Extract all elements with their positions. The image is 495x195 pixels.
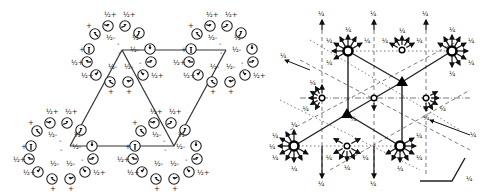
spin-label: ½+	[169, 108, 182, 116]
spin-label: +	[181, 46, 187, 54]
spin-glyph-icon	[240, 70, 250, 80]
spin-label: +	[132, 119, 138, 127]
spin-label: -	[163, 137, 166, 145]
arrow-label: ¼	[470, 131, 477, 139]
spin-glyph-icon	[222, 21, 232, 31]
left-lattice-diagram: +½+½++½-½+-½+++½+½-½-½-½---+½+½++½-½+-½+…	[13, 11, 266, 193]
spin-label: -	[164, 146, 167, 154]
spin-glyph-icon	[191, 141, 201, 151]
lattice-grid-lines	[280, 30, 470, 175]
arrow-label: ¼	[416, 37, 423, 45]
spin-glyph-icon	[105, 77, 115, 87]
spin-label: ½-	[154, 160, 164, 168]
filled-triangle-node-icon	[396, 76, 408, 86]
spin-glyph-icon	[120, 21, 130, 31]
spin-label: ½-	[124, 63, 134, 71]
spin-label: ½+	[206, 11, 219, 19]
spin-glyph-icon	[248, 57, 258, 67]
spin-glyph-icon	[169, 174, 179, 184]
spin-label: +	[125, 143, 131, 151]
arrow-label: ¼	[397, 165, 404, 173]
spin-glyph-icon	[205, 21, 215, 31]
spin-label: ½-	[210, 63, 220, 71]
spin-label: +	[79, 46, 85, 54]
arrow-label: ¼	[272, 132, 279, 140]
arrow-label: ¼	[344, 164, 351, 172]
arrow-label: ¼	[439, 105, 446, 113]
spin-label: ½-	[74, 131, 84, 139]
arrow-label: ¼	[291, 165, 298, 173]
spin-label: ½+	[127, 169, 140, 177]
spin-glyph-icon	[149, 118, 159, 128]
spin-label: ½-	[178, 131, 188, 139]
spin-label: ½+	[71, 59, 84, 67]
spin-glyph-icon	[47, 174, 57, 184]
spin-label: -	[139, 59, 142, 67]
spin-glyph-icon	[88, 154, 98, 164]
spin-label: ½-	[232, 46, 242, 54]
arrow-label: ¼	[326, 59, 333, 67]
spin-label: -	[219, 40, 222, 48]
spin-label: ½-	[176, 143, 186, 151]
arrow-label: ¼	[423, 114, 430, 122]
spin-glyph-icon	[87, 141, 97, 151]
spin-cluster-bottom-left: +½+½++½-½+-½+++½+½-½-½-½---	[13, 108, 106, 193]
open-small-node-icon	[399, 47, 405, 53]
spin-glyph-icon	[65, 174, 75, 184]
open-small-node-icon	[371, 95, 377, 101]
spin-label: ½+	[123, 11, 136, 19]
spin-label: ½+	[13, 156, 26, 164]
spin-label: ½+	[93, 169, 106, 177]
spin-cluster-bottom-middle: +½+½++½-½+-½+++½+½-½-½-½---	[117, 108, 210, 193]
spin-glyph-icon	[103, 21, 113, 31]
spin-label: ½+	[65, 108, 78, 116]
spin-glyph-icon	[151, 174, 161, 184]
spin-label: ½+	[104, 11, 117, 19]
arrow-label: ¼	[318, 10, 325, 18]
arrow-label: ¼	[399, 27, 406, 35]
spin-label: ½+	[117, 156, 130, 164]
spin-label: +	[210, 88, 216, 96]
arrow-label: ¼	[416, 154, 423, 162]
spin-glyph-icon	[32, 126, 42, 136]
spin-glyph-icon	[84, 44, 94, 54]
arrow-label: ¼	[468, 59, 475, 67]
spin-label: +	[172, 185, 178, 193]
arrow-label: ¼	[326, 37, 333, 45]
spin-glyph-icon	[136, 126, 146, 136]
spin-label: +	[228, 88, 234, 96]
arrow-label: ¼	[468, 37, 475, 45]
spin-label: ½-	[108, 63, 118, 71]
arrow-label: ¼	[272, 154, 279, 162]
arrow-label: ¼	[280, 52, 287, 60]
spin-label: ½+	[46, 108, 59, 116]
spin-label: -	[60, 146, 63, 154]
open-circle-large-node-icon	[344, 47, 353, 56]
spin-label: ½-	[170, 160, 180, 168]
diagram-canvas: +½+½++½-½+-½+++½+½-½-½-½---+½+½++½-½+-½+…	[0, 0, 495, 195]
spin-label: +	[28, 119, 34, 127]
spin-label: ½-	[66, 160, 76, 168]
arrow-label: ¼	[449, 70, 456, 78]
arrow-label: ¼	[370, 180, 377, 188]
arrow-label: ¼	[422, 10, 429, 18]
spin-label: +	[108, 88, 114, 96]
spin-label: ½+	[23, 169, 36, 177]
spin-label: ½+	[151, 72, 164, 80]
arrow-label: ¼	[364, 37, 371, 45]
spin-label: -	[59, 137, 62, 145]
arrow-label: ¼	[449, 26, 456, 34]
arrow-label: ¼	[345, 26, 352, 34]
spin-label: ½-	[106, 34, 116, 42]
spin-label: +	[50, 185, 56, 193]
spin-label: ½+	[197, 169, 210, 177]
spin-glyph-icon	[138, 70, 148, 80]
spin-label: -	[81, 156, 84, 164]
spin-glyph-icon	[225, 77, 235, 87]
scale-label: ¼	[466, 175, 473, 183]
open-small-node-icon	[344, 143, 350, 149]
spin-label: ½-	[234, 34, 244, 42]
spin-label: +	[86, 22, 92, 30]
open-small-node-icon	[423, 95, 429, 101]
arrow-label: ¼	[291, 121, 298, 129]
